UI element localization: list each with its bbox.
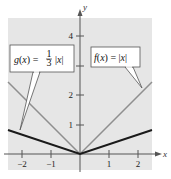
y-tick-label: 4 (69, 31, 74, 41)
x-tick-label: 2 (136, 159, 141, 169)
y-tick-label: 1 (69, 120, 74, 130)
y-tick-label: 2 (69, 90, 74, 100)
y-axis-label: y (82, 2, 87, 12)
absolute-value-chart: −2 −1 1 2 1 2 4 x y g(x) = 1 3 |x| f(x) … (0, 0, 171, 179)
g-label-abs: |x| (55, 54, 63, 65)
x-axis-label: x (162, 149, 167, 159)
g-frac-den: 3 (47, 57, 52, 68)
f-label-text: f(x) = |x| (94, 52, 127, 64)
x-tick-label: −1 (46, 159, 56, 169)
x-axis-arrow-icon (155, 152, 162, 157)
x-tick-label: 1 (107, 159, 112, 169)
x-tick-label: −2 (17, 159, 27, 169)
g-label-prefix: g(x) = (14, 54, 39, 66)
y-axis-arrow-icon (78, 9, 83, 16)
